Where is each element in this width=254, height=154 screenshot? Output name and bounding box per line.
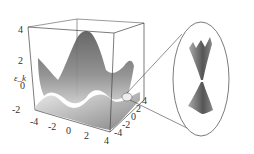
z-tick: -2 [12,104,20,115]
dirac-point-marker [122,93,132,101]
z-axis-ticks: 4 2 0 -2 [12,24,25,115]
upper-band-surface [38,31,134,103]
x-tick: 4 [104,135,109,146]
band-structure-figure: 4 2 0 -2 ε_k -4 -2 0 2 4 -4 -2 0 2 4 [0,0,254,154]
z-tick: 2 [18,55,23,66]
x-tick: 0 [66,125,71,136]
z-tick: 4 [18,24,23,35]
x-tick: -2 [48,121,56,132]
y-tick: 2 [136,103,141,114]
x-tick: 2 [84,130,89,141]
dirac-cone-inset [173,22,229,136]
z-axis-label: ε_k [14,73,27,83]
x-tick: -4 [30,116,38,127]
y-tick: 4 [142,95,147,106]
y-tick: -2 [122,119,130,130]
